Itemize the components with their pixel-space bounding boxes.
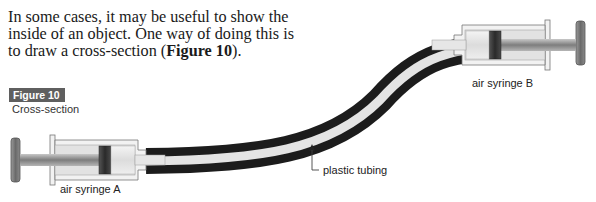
plunger-knob-a — [11, 138, 20, 182]
cross-section-diagram — [0, 0, 596, 202]
piston-b — [489, 31, 501, 59]
label-plastic-tubing: plastic tubing — [323, 164, 387, 176]
label-syringe-b: air syringe B — [472, 77, 533, 89]
syringe-a — [11, 135, 165, 185]
piston-a — [99, 146, 111, 174]
label-syringe-a: air syringe A — [60, 183, 121, 195]
plunger-knob-b — [576, 21, 585, 65]
